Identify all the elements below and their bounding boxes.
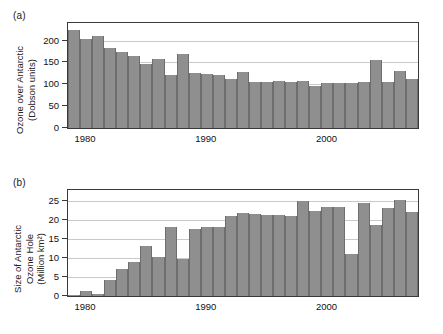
y-axis-tick-label: 50 <box>48 100 59 111</box>
bar <box>382 208 394 296</box>
bar <box>321 83 333 128</box>
bar <box>333 83 345 128</box>
bar <box>382 82 394 128</box>
bar <box>104 48 116 129</box>
bar <box>394 200 406 296</box>
bar <box>237 213 249 296</box>
x-axis-tick-label: 1980 <box>75 301 96 312</box>
bar <box>406 212 418 296</box>
bar <box>165 75 177 128</box>
bar <box>177 259 189 296</box>
y-axis-tick-label: 25 <box>48 195 59 206</box>
bar <box>68 295 80 296</box>
bar <box>213 227 225 296</box>
bar <box>92 36 104 128</box>
bar <box>285 82 297 128</box>
bar <box>92 294 104 296</box>
y-axis-tick-label: 20 <box>48 214 59 225</box>
bar <box>80 291 92 296</box>
bar <box>249 82 261 128</box>
bar <box>297 81 309 128</box>
panel-a-x-axis-labels: 198019902000 <box>67 133 419 147</box>
bar <box>201 74 213 128</box>
bar <box>152 257 164 296</box>
bar <box>213 75 225 128</box>
bar <box>358 203 370 296</box>
bar <box>116 269 128 296</box>
bar <box>140 64 152 128</box>
bar <box>261 215 273 296</box>
bar <box>128 56 140 128</box>
bar <box>285 216 297 296</box>
panel-b-x-axis-labels: 198019902000 <box>67 301 419 315</box>
bar <box>297 201 309 296</box>
panel-b-y-axis: 0510152025 <box>0 167 67 295</box>
y-axis-tick-label: 0 <box>54 290 59 301</box>
bar <box>273 81 285 128</box>
bar <box>128 262 140 296</box>
bar <box>249 214 261 296</box>
bar <box>370 60 382 128</box>
bar <box>104 280 116 296</box>
bar <box>177 54 189 128</box>
bar <box>309 211 321 296</box>
bar <box>237 72 249 128</box>
y-axis-tick-label: 10 <box>48 252 59 263</box>
bar <box>116 52 128 128</box>
panel-a: (a) Ozone over Antarctic (Dobson units) … <box>0 0 443 167</box>
bar <box>309 86 321 128</box>
bar <box>140 246 152 296</box>
panel-b-bar-series <box>68 190 418 296</box>
bar <box>358 82 370 128</box>
figure-root: (a) Ozone over Antarctic (Dobson units) … <box>0 0 443 334</box>
bar <box>321 207 333 296</box>
y-axis-tick-label: 150 <box>43 56 59 67</box>
bar <box>80 39 92 128</box>
x-axis-tick-label: 2000 <box>316 301 337 312</box>
bar <box>152 59 164 128</box>
bar <box>345 254 357 296</box>
bar <box>370 225 382 296</box>
bar <box>273 215 285 296</box>
panel-a-plot-area <box>67 22 419 129</box>
y-axis-tick-label: 5 <box>54 271 59 282</box>
y-axis-tick-label: 0 <box>54 122 59 133</box>
panel-b: (b) Size of Antarctic Ozone Hole (Millio… <box>0 167 443 334</box>
x-axis-tick-label: 1990 <box>195 133 216 144</box>
x-axis-tick-label: 2000 <box>316 133 337 144</box>
panel-b-plot-area <box>67 189 419 297</box>
bar <box>68 30 80 128</box>
x-axis-tick-label: 1990 <box>195 301 216 312</box>
x-axis-tick-label: 1980 <box>75 133 96 144</box>
bar <box>406 79 418 128</box>
bar <box>225 216 237 296</box>
bar <box>394 71 406 128</box>
bar <box>165 227 177 296</box>
panel-a-y-axis: 050100150200 <box>0 0 67 127</box>
y-axis-tick-label: 15 <box>48 233 59 244</box>
bar <box>201 227 213 296</box>
bar <box>333 207 345 296</box>
bar <box>345 83 357 128</box>
bar <box>189 73 201 128</box>
bar <box>225 79 237 128</box>
y-axis-tick-label: 100 <box>43 78 59 89</box>
y-axis-tick-label: 200 <box>43 34 59 45</box>
bar <box>189 229 201 296</box>
panel-a-bar-series <box>68 23 418 128</box>
bar <box>261 82 273 128</box>
